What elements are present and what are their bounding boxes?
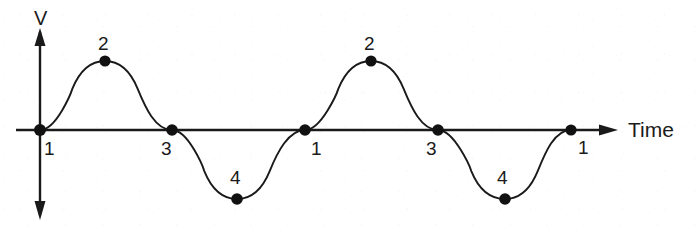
point-label-4a: 4 (230, 168, 241, 187)
data-point-marker (365, 55, 376, 66)
sine-wave-figure: V Time 1 2 3 4 1 2 3 4 1 (0, 0, 697, 232)
x-axis-right-arrowhead (599, 125, 618, 136)
data-point-marker (34, 124, 46, 136)
point-label-1b: 1 (311, 139, 322, 158)
data-point-marker (299, 124, 311, 136)
point-label-3a: 3 (161, 139, 172, 158)
point-label-4b: 4 (497, 168, 508, 187)
y-axis-down-arrowhead (35, 201, 46, 220)
y-axis-label: V (34, 8, 47, 28)
x-axis-label: Time (628, 119, 674, 140)
data-point-marker (166, 124, 178, 136)
point-label-1c: 1 (578, 138, 589, 157)
point-label-2b: 2 (364, 34, 375, 53)
point-label-1a: 1 (44, 139, 55, 158)
data-point-marker (565, 124, 576, 135)
data-point-marker (432, 124, 444, 136)
data-point-marker (499, 193, 511, 205)
data-point-marker (99, 55, 110, 66)
y-axis-up-arrowhead (35, 28, 46, 46)
data-point-marker (231, 193, 243, 205)
point-label-3b: 3 (426, 139, 437, 158)
point-label-2a: 2 (98, 34, 109, 53)
